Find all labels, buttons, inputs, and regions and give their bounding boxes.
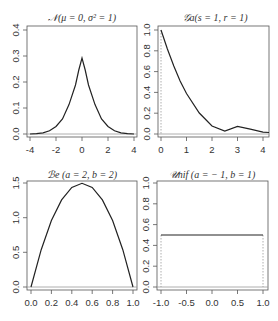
uniform-panel: 𝒰nif (a = − 1, b = 1) 0.0 0.2 0.4 0.6 0.… [140,169,270,308]
svg-text:0.4: 0.4 [65,297,78,308]
distribution-plots: 𝒩(μ = 0, σ² = 1) 0.0 0.1 0.2 0.3 0.4 -4 … [0,0,278,321]
svg-text:0.2: 0.2 [140,260,151,273]
svg-text:0.8: 0.8 [141,44,152,57]
svg-text:0.0: 0.0 [205,297,218,308]
gamma-title: 𝒢a(s = 1, r = 1) [183,12,249,24]
uniform-title: 𝒰nif (a = − 1, b = 1) [169,169,256,181]
normal-curve [30,58,134,134]
plot-box [158,26,269,137]
beta-panel: ℬe (a = 2, b = 2) 0.0 0.5 1.0 1.5 0.0 0.… [10,169,140,308]
svg-text:0.2: 0.2 [10,75,21,88]
svg-text:4: 4 [260,144,265,155]
svg-text:4: 4 [131,144,136,155]
svg-text:1.0: 1.0 [141,23,152,36]
svg-text:0.4: 0.4 [141,86,152,99]
svg-text:1.0: 1.0 [256,297,269,308]
svg-text:0.3: 0.3 [10,49,21,62]
svg-text:0.0: 0.0 [24,297,37,308]
gamma-curve [161,30,269,133]
svg-text:2: 2 [105,144,110,155]
svg-text:0.0: 0.0 [140,280,151,293]
svg-text:0.6: 0.6 [140,218,151,231]
gamma-panel: 𝒢a(s = 1, r = 1) 0.0 0.2 0.4 0.6 0.8 1.0… [141,12,269,155]
svg-text:-1.0: -1.0 [153,297,169,308]
plot-box [27,26,137,137]
svg-text:0.5: 0.5 [231,297,244,308]
svg-text:-4: -4 [26,144,34,155]
svg-text:0.1: 0.1 [10,101,21,114]
svg-text:2: 2 [209,144,214,155]
beta-curve [31,183,133,287]
beta-title: ℬe (a = 2, b = 2) [47,169,118,181]
svg-text:0: 0 [158,144,163,155]
svg-text:1.0: 1.0 [140,176,151,189]
svg-text:0.0: 0.0 [10,280,21,293]
svg-text:0.2: 0.2 [141,107,152,120]
svg-text:0.8: 0.8 [140,197,151,210]
svg-text:-2: -2 [52,144,60,155]
svg-text:1.0: 1.0 [10,211,21,224]
svg-text:-0.5: -0.5 [178,297,194,308]
svg-text:1: 1 [184,144,189,155]
svg-text:0.4: 0.4 [140,239,151,252]
svg-text:0.8: 0.8 [106,297,119,308]
normal-panel: 𝒩(μ = 0, σ² = 1) 0.0 0.1 0.2 0.3 0.4 -4 … [10,12,137,155]
svg-text:3: 3 [235,144,240,155]
svg-text:0.4: 0.4 [10,23,21,36]
svg-text:0.6: 0.6 [86,297,99,308]
svg-text:1.5: 1.5 [10,176,21,189]
svg-text:0.0: 0.0 [10,127,21,140]
svg-text:0.5: 0.5 [10,246,21,259]
svg-text:1.0: 1.0 [126,297,139,308]
svg-text:0.0: 0.0 [141,127,152,140]
svg-text:0.2: 0.2 [45,297,58,308]
svg-text:0.6: 0.6 [141,65,152,78]
svg-text:0: 0 [79,144,84,155]
normal-title: 𝒩(μ = 0, σ² = 1) [48,12,117,24]
plot-box [27,181,137,290]
